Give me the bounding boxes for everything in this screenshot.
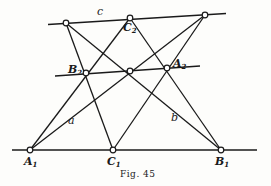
label-B1: B1	[215, 156, 229, 168]
label-C1: C1	[107, 156, 121, 168]
point-B2	[83, 70, 89, 76]
point-C2	[127, 15, 133, 21]
point-B1	[218, 147, 224, 153]
point-P1	[63, 20, 69, 26]
figure-45: c C2 B2 A2 a b A1 C1 B1 Fig. 45	[0, 0, 271, 186]
label-C2: C2	[123, 22, 137, 34]
point-P3	[202, 12, 208, 18]
figure-caption: Fig. 45	[120, 170, 156, 179]
label-A1: A1	[24, 156, 37, 168]
label-line-a: a	[68, 115, 75, 126]
label-B2: B2	[68, 64, 82, 76]
label-line-c: c	[97, 6, 103, 17]
point-M	[127, 68, 133, 74]
point-A1	[27, 147, 33, 153]
line-C1-P3	[113, 15, 205, 150]
label-line-b: b	[171, 112, 178, 123]
point-A2	[164, 65, 170, 71]
point-C1	[110, 147, 116, 153]
label-A2: A2	[173, 58, 186, 70]
